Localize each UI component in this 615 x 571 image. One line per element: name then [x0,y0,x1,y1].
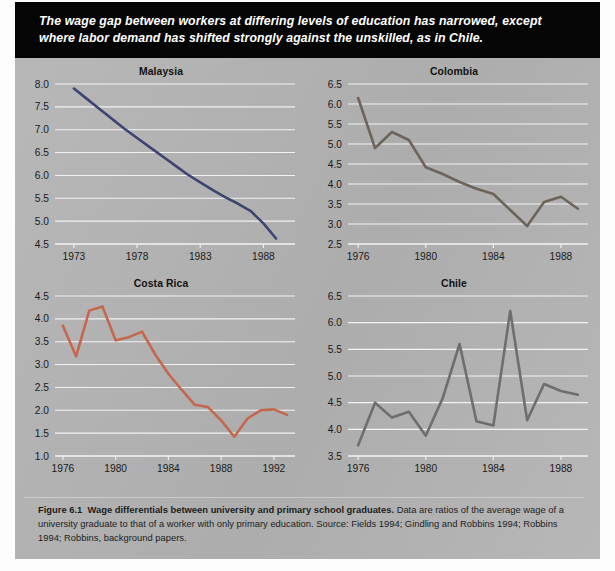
caption-divider [24,497,584,498]
x-axis-tick-label: 1988 [550,463,573,474]
x-axis-tick-label: 1980 [104,463,127,474]
y-axis-tick-label: 4.0 [328,424,342,435]
y-axis-tick-label: 6.0 [35,170,49,181]
y-axis-tick-label: 8.0 [35,79,49,90]
y-axis-tick-label: 3.5 [328,451,342,462]
chart-grid: Malaysia 4.55.05.56.06.57.07.58.01973197… [15,60,600,492]
x-axis-tick-label: 1973 [63,251,86,262]
header-banner: The wage gap between workers at differin… [15,2,600,58]
caption-figure-label: Figure 6.1 [38,504,82,515]
y-axis-tick-label: 5.5 [328,344,342,355]
y-axis-tick-label: 4.5 [35,239,49,250]
data-series-line [63,307,287,437]
plot-area-costa-rica: 1.01.52.02.53.03.54.04.51976198019841988… [15,272,307,484]
banner-headline: The wage gap between workers at differin… [39,13,579,47]
chart-panel-colombia: Colombia 2.53.03.54.04.55.05.56.06.51976… [308,60,600,272]
y-axis-tick-label: 1.5 [35,428,49,439]
y-axis-tick-label: 6.0 [328,317,342,328]
chart-svg: 2.53.03.54.04.55.05.56.06.51976198019841… [308,60,600,272]
y-axis-tick-label: 6.5 [328,291,342,302]
plot-area-chile: 3.54.04.55.05.56.06.51976198019841988 [308,272,600,484]
data-series-line [358,98,578,226]
x-axis-tick-label: 1978 [126,251,149,262]
x-axis-tick-label: 1983 [189,251,212,262]
x-axis-tick-label: 1980 [414,251,437,262]
figure-page: The wage gap between workers at differin… [0,0,615,571]
x-axis-tick-label: 1992 [263,463,286,474]
chart-svg: 1.01.52.02.53.03.54.04.51976198019841988… [15,272,307,484]
y-axis-tick-label: 4.5 [328,397,342,408]
x-axis-tick-label: 1976 [347,463,370,474]
plot-area-malaysia: 4.55.05.56.06.57.07.58.01973197819831988 [15,60,307,272]
y-axis-tick-label: 2.0 [35,405,49,416]
y-axis-tick-label: 6.5 [35,147,49,158]
y-axis-tick-label: 1.0 [35,451,49,462]
x-axis-tick-label: 1980 [414,463,437,474]
y-axis-tick-label: 7.0 [35,124,49,135]
y-axis-tick-label: 5.0 [328,371,342,382]
data-series-line [358,311,578,445]
x-axis-tick-label: 1984 [157,463,180,474]
chart-svg: 4.55.05.56.06.57.07.58.01973197819831988 [15,60,307,272]
y-axis-tick-label: 3.0 [328,219,342,230]
y-axis-tick-label: 5.5 [328,119,342,130]
x-axis-tick-label: 1984 [482,463,505,474]
x-axis-tick-label: 1988 [210,463,233,474]
y-axis-tick-label: 2.5 [35,382,49,393]
y-axis-tick-label: 3.5 [328,199,342,210]
chart-panel-chile: Chile 3.54.04.55.05.56.06.51976198019841… [308,272,600,484]
y-axis-tick-label: 5.5 [35,193,49,204]
x-axis-tick-label: 1988 [550,251,573,262]
x-axis-tick-label: 1976 [347,251,370,262]
plot-area-colombia: 2.53.03.54.04.55.05.56.06.51976198019841… [308,60,600,272]
chart-panel-malaysia: Malaysia 4.55.05.56.06.57.07.58.01973197… [15,60,307,272]
chart-svg: 3.54.04.55.05.56.06.51976198019841988 [308,272,600,484]
y-axis-tick-label: 5.0 [35,216,49,227]
y-axis-tick-label: 2.5 [328,239,342,250]
y-axis-tick-label: 3.0 [35,359,49,370]
y-axis-tick-label: 4.0 [328,179,342,190]
chart-panel-costa-rica: Costa Rica 1.01.52.02.53.03.54.04.519761… [15,272,307,484]
caption-title: Wage differentials between university an… [88,504,395,515]
data-series-line [74,89,276,239]
y-axis-tick-label: 4.0 [35,313,49,324]
y-axis-tick-label: 5.0 [328,139,342,150]
x-axis-tick-label: 1988 [252,251,275,262]
y-axis-tick-label: 3.5 [35,336,49,347]
x-axis-tick-label: 1984 [482,251,505,262]
y-axis-tick-label: 6.0 [328,99,342,110]
y-axis-tick-label: 6.5 [328,79,342,90]
figure-caption: Figure 6.1 Wage differentials between un… [38,503,578,546]
y-axis-tick-label: 7.5 [35,101,49,112]
y-axis-tick-label: 4.5 [35,291,49,302]
y-axis-tick-label: 4.5 [328,159,342,170]
x-axis-tick-label: 1976 [52,463,75,474]
